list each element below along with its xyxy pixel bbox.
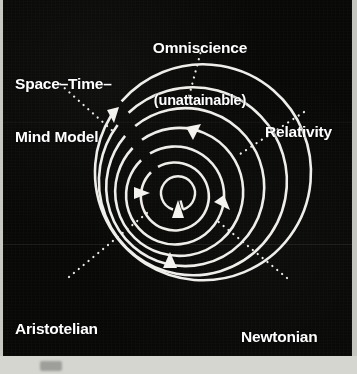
core-tail [181, 201, 184, 210]
label-omniscience: Omniscience (unattainable) [134, 4, 266, 144]
label-newtonian-line1: Newtonian [241, 328, 318, 346]
label-relativity-line1: Relativity [265, 123, 332, 141]
label-omniscience-line2: (unattainable) [134, 92, 266, 110]
label-omniscience-line1: Omniscience [134, 39, 266, 57]
label-space-time-mind-line2: Mind Model [15, 128, 112, 146]
label-aristotelian-line1: Aristotelian [15, 320, 98, 338]
label-space-time-mind-line1: Space–Time– [15, 75, 112, 93]
page-edge-left [0, 0, 3, 356]
label-newtonian-model: Newtonian Model [241, 293, 318, 356]
label-space-time-mind-model: Space–Time– Mind Model [15, 40, 112, 180]
page-margin-smudge [40, 361, 62, 371]
figure-root: Omniscience (unattainable) Space–Time– M… [0, 0, 357, 374]
diagram-plate: Omniscience (unattainable) Space–Time– M… [3, 0, 352, 356]
ring-6 [141, 162, 209, 230]
label-relativity: Relativity [265, 88, 332, 176]
label-aristotelian-model: Aristotelian Model [15, 285, 98, 356]
page-edge-right [352, 0, 357, 356]
